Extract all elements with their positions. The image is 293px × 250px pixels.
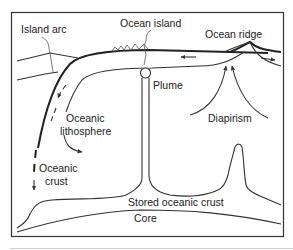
label-ocean-island: Ocean island <box>120 17 181 29</box>
slab-dashed <box>34 150 36 178</box>
label-oceanic-crust-1: Oceanic <box>39 162 78 174</box>
slab-inner-arrow <box>58 85 66 98</box>
label-plume: Plume <box>153 79 183 91</box>
ocean-island-leader <box>144 30 151 65</box>
mantle-diagram: Island arc Ocean island Ocean ridge Plum… <box>0 0 293 250</box>
label-stored-oceanic-crust: Stored oceanic crust <box>128 196 224 208</box>
ridge-left-curve <box>226 42 250 51</box>
diapirism-arrow-right <box>232 66 268 118</box>
island-arc-lower-plate <box>17 72 58 80</box>
label-oceanic-lithosphere-2: lithosphere <box>60 125 112 137</box>
label-ocean-ridge: Ocean ridge <box>205 28 262 40</box>
plume-head <box>141 68 151 78</box>
label-oceanic-crust-2: crust <box>45 175 68 187</box>
label-island-arc: Island arc <box>21 23 67 35</box>
label-diapirism: Diapirism <box>208 112 252 124</box>
page-bottom-rule <box>10 248 293 249</box>
label-oceanic-lithosphere-1: Oceanic <box>66 112 105 124</box>
diapirism-arrow-left <box>190 66 226 115</box>
slab-inner-dash <box>50 108 56 124</box>
island-arc-upper-plate <box>17 53 78 61</box>
label-core: Core <box>134 212 157 224</box>
lithosphere-curved-arrow <box>64 135 82 152</box>
